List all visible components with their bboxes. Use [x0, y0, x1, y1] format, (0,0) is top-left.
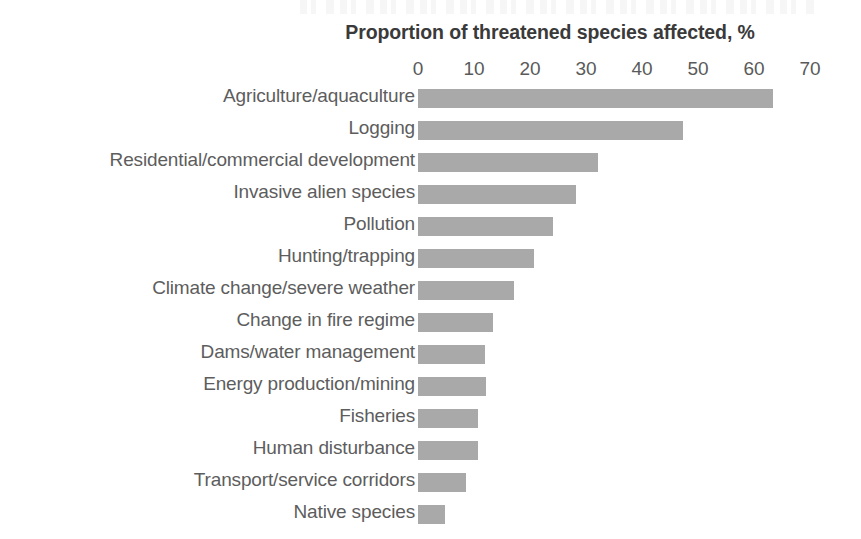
bar — [418, 89, 773, 108]
bar — [418, 473, 466, 492]
bar — [418, 249, 534, 268]
chart-row: Hunting/trapping — [0, 245, 861, 273]
chart-title: Proportion of threatened species affecte… — [260, 21, 840, 44]
bar — [418, 217, 553, 236]
chart-row: Logging — [0, 117, 861, 145]
x-tick-label: 40 — [631, 58, 652, 80]
x-tick-label: 0 — [413, 58, 424, 80]
bar — [418, 409, 478, 428]
chart-row: Climate change/severe weather — [0, 277, 861, 305]
bar — [418, 185, 576, 204]
plot-area: Agriculture/aquacultureLoggingResidentia… — [0, 85, 861, 539]
chart-row: Transport/service corridors — [0, 469, 861, 497]
bar — [418, 377, 486, 396]
bar — [418, 121, 683, 140]
category-label: Residential/commercial development — [110, 149, 415, 171]
category-label: Native species — [294, 501, 415, 523]
category-label: Dams/water management — [201, 341, 415, 363]
chart-row: Pollution — [0, 213, 861, 241]
category-label: Logging — [348, 117, 415, 139]
chart-row: Agriculture/aquaculture — [0, 85, 861, 113]
chart-row: Residential/commercial development — [0, 149, 861, 177]
chart-row: Invasive alien species — [0, 181, 861, 209]
bar — [418, 441, 478, 460]
chart-row: Native species — [0, 501, 861, 529]
chart-row: Energy production/mining — [0, 373, 861, 401]
category-label: Agriculture/aquaculture — [223, 85, 415, 107]
bar — [418, 345, 485, 364]
chart-row: Dams/water management — [0, 341, 861, 369]
scan-bleed-through-artifact — [300, 0, 820, 14]
x-tick-label: 70 — [799, 58, 820, 80]
category-label: Climate change/severe weather — [152, 277, 415, 299]
category-label: Human disturbance — [253, 437, 415, 459]
x-tick-label: 50 — [687, 58, 708, 80]
category-label: Change in fire regime — [236, 309, 415, 331]
bar — [418, 505, 445, 524]
chart-row: Change in fire regime — [0, 309, 861, 337]
x-tick-label: 60 — [743, 58, 764, 80]
category-label: Transport/service corridors — [194, 469, 415, 491]
bar — [418, 313, 493, 332]
x-tick-label: 10 — [463, 58, 484, 80]
category-label: Pollution — [343, 213, 415, 235]
chart-row: Human disturbance — [0, 437, 861, 465]
x-axis-tick-labels: 010203040506070 — [0, 58, 861, 80]
bar-chart: Proportion of threatened species affecte… — [0, 0, 861, 539]
category-label: Energy production/mining — [203, 373, 415, 395]
bar — [418, 281, 514, 300]
bar — [418, 153, 598, 172]
category-label: Hunting/trapping — [278, 245, 415, 267]
x-tick-label: 30 — [575, 58, 596, 80]
category-label: Fisheries — [339, 405, 415, 427]
chart-row: Fisheries — [0, 405, 861, 433]
category-label: Invasive alien species — [233, 181, 415, 203]
x-tick-label: 20 — [519, 58, 540, 80]
